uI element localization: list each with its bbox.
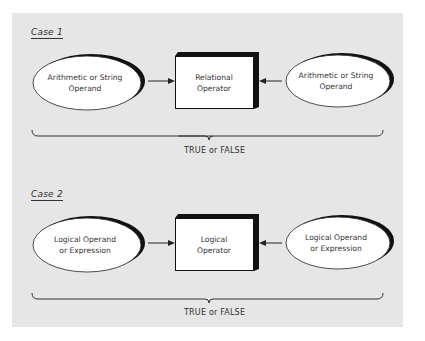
- left-operand-line1: Arithmetic or String: [48, 73, 123, 82]
- left-operand-ellipse: Logical Operandor Expression: [31, 213, 147, 273]
- right-operand-ellipse: Arithmetic or StringOperand: [280, 51, 396, 111]
- operator-line2: Operator: [197, 246, 231, 255]
- left-operand-ellipse: Arithmetic or StringOperand: [31, 51, 147, 111]
- operator-line1: Logical: [201, 235, 228, 244]
- right-operand-line1: Arithmetic or String: [299, 71, 374, 80]
- arrow-left-to-operator-case2: [148, 240, 175, 246]
- operator-box: LogicalOperator: [175, 214, 257, 272]
- left-operand-line1: Logical Operand: [54, 235, 116, 244]
- right-operand-line2: or Expression: [310, 244, 361, 253]
- arrow-left-to-operator-case1: [148, 78, 175, 84]
- operator-line1: Relational: [195, 73, 233, 82]
- operator-box: RelationalOperator: [175, 52, 257, 110]
- brace-case2: [32, 293, 383, 303]
- right-operand-ellipse: Logical Operandor Expression: [280, 213, 396, 273]
- result-label: TRUE or FALSE: [184, 146, 245, 155]
- right-operand-line1: Logical Operand: [305, 233, 367, 242]
- case-label: Case 2: [31, 189, 63, 201]
- right-operand-line2: Operand: [320, 82, 353, 91]
- left-operand-line2: or Expression: [59, 246, 110, 255]
- case-label: Case 1: [31, 27, 63, 39]
- left-operand-line2: Operand: [69, 84, 102, 93]
- brace-case1: [32, 130, 383, 140]
- operator-line2: Operator: [197, 84, 231, 93]
- result-label: TRUE or FALSE: [184, 308, 245, 317]
